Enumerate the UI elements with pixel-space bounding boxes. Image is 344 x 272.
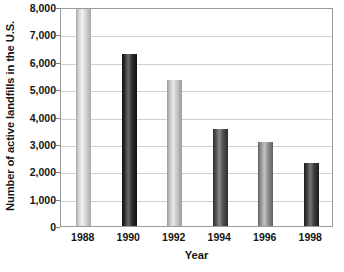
- bar-1996: [258, 142, 273, 226]
- y-axis-tick-label: 5,000: [18, 85, 56, 95]
- y-axis-tick-label: 0: [18, 222, 56, 232]
- y-axis-tick-mark: [56, 8, 60, 9]
- bar-1992: [167, 80, 182, 226]
- x-axis-tick-label: 1988: [60, 230, 106, 244]
- bars-layer: [61, 9, 332, 226]
- y-axis-tick-label: 3,000: [18, 140, 56, 150]
- y-axis-title-label: Number of active landfills in the U.S.: [4, 21, 16, 211]
- y-axis-tick-mark: [56, 200, 60, 201]
- y-axis-tick-mark: [56, 227, 60, 228]
- y-axis-tick-mark: [56, 63, 60, 64]
- y-axis-tick-labels: 8,0007,0006,0005,0004,0003,0002,0001,000…: [18, 0, 56, 236]
- y-axis-tick-label: 2,000: [18, 167, 56, 177]
- y-axis-tick-mark: [56, 172, 60, 173]
- x-axis-tick-label: 1994: [197, 230, 243, 244]
- y-axis-tick-mark: [56, 118, 60, 119]
- bar-1988: [76, 8, 91, 226]
- x-axis-tick-label: 1996: [242, 230, 288, 244]
- x-axis-tick-labels: 198819901992199419961998: [60, 230, 333, 246]
- bar-1994: [213, 129, 228, 226]
- bar-1990: [122, 54, 137, 226]
- plot-area: [60, 8, 333, 227]
- x-axis-title: Year: [60, 249, 333, 261]
- x-axis-tick-label: 1992: [151, 230, 197, 244]
- y-axis-tick-mark: [56, 145, 60, 146]
- bar-1998: [304, 163, 319, 226]
- y-axis-tick-mark: [56, 35, 60, 36]
- y-axis-tick-label: 6,000: [18, 58, 56, 68]
- x-axis-tick-label: 1990: [106, 230, 152, 244]
- y-axis-title: Number of active landfills in the U.S.: [0, 0, 20, 232]
- y-axis-tick-label: 4,000: [18, 113, 56, 123]
- y-axis-tick-label: 1,000: [18, 195, 56, 205]
- y-axis-tick-label: 8,000: [18, 3, 56, 13]
- bar-chart: Number of active landfills in the U.S. 8…: [0, 0, 344, 272]
- x-axis-tick-label: 1998: [288, 230, 334, 244]
- y-axis-tick-mark: [56, 90, 60, 91]
- y-axis-tick-label: 7,000: [18, 30, 56, 40]
